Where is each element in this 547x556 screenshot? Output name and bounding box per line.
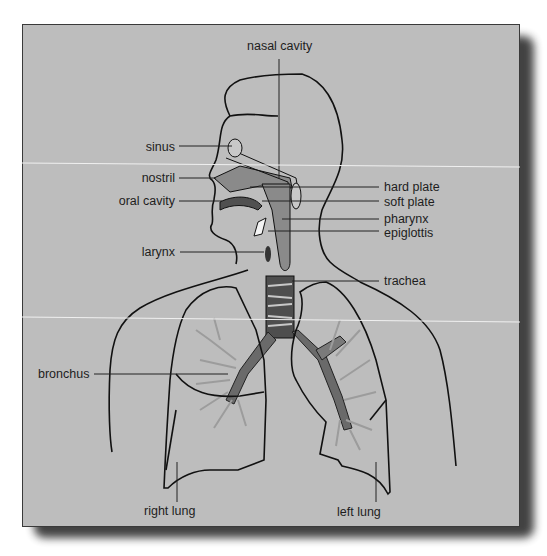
label-trachea: trachea xyxy=(384,274,426,288)
bronchi xyxy=(226,330,352,430)
left-lung-outline xyxy=(292,282,391,494)
label-pharynx: pharynx xyxy=(384,212,428,226)
respiratory-system-illustration xyxy=(0,0,547,556)
label-nostril: nostril xyxy=(120,171,175,185)
label-hard-plate: hard plate xyxy=(384,180,440,194)
scan-line xyxy=(22,163,520,167)
label-soft-plate: soft plate xyxy=(384,195,435,209)
label-larynx: larynx xyxy=(110,245,175,259)
label-left-lung: left lung xyxy=(337,505,381,519)
trachea xyxy=(266,276,294,338)
label-epiglottis: epiglottis xyxy=(384,226,433,240)
label-sinus: sinus xyxy=(141,140,175,154)
label-nasal-cavity: nasal cavity xyxy=(247,39,312,53)
label-bronchus: bronchus xyxy=(38,367,89,381)
leader-lines xyxy=(94,59,379,502)
label-oral-cavity: oral cavity xyxy=(95,194,175,208)
label-right-lung: right lung xyxy=(144,504,195,518)
upper-airway xyxy=(214,139,301,271)
right-lung-outline xyxy=(164,287,266,488)
